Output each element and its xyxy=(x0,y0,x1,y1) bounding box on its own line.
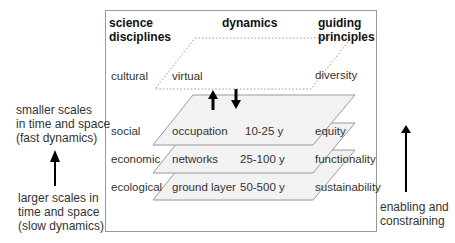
layer-label-networks: networks xyxy=(172,153,218,166)
header-principles-line1: guiding xyxy=(318,16,375,30)
slow-dynamics-label: larger scales in time and space (slow dy… xyxy=(18,191,104,233)
header-dynamics: dynamics xyxy=(222,16,277,30)
period-occupation: 10-25 y xyxy=(245,125,283,138)
discipline-ecological: ecological xyxy=(111,181,162,194)
slow-dynamics-line3: (slow dynamics) xyxy=(18,219,104,233)
slow-dynamics-line1: larger scales in xyxy=(18,191,104,205)
enabling-label: enabling and constraining xyxy=(380,200,449,228)
header-disciplines-line1: science xyxy=(109,16,171,30)
header-principles-line2: principles xyxy=(318,30,375,44)
period-networks: 25-100 y xyxy=(240,153,285,166)
layer-label-occupation: occupation xyxy=(172,125,228,138)
fast-dynamics-line2: in time and space xyxy=(16,117,110,131)
discipline-economic: economic xyxy=(111,153,160,166)
principle-equity: equity xyxy=(315,125,346,138)
layer-label-virtual: virtual xyxy=(172,70,203,83)
enabling-line2: constraining xyxy=(380,214,449,228)
principle-functionality: functionality xyxy=(315,153,376,166)
header-principles: guiding principles xyxy=(318,16,375,44)
header-disciplines-line2: disciplines xyxy=(109,30,171,44)
discipline-social: social xyxy=(111,125,140,138)
scale-arrow-icon xyxy=(50,150,60,186)
enabling-line1: enabling and xyxy=(380,200,449,214)
slow-dynamics-line2: time and space xyxy=(18,205,104,219)
principle-diversity: diversity xyxy=(315,69,357,82)
principle-sustainability: sustainability xyxy=(315,181,381,194)
fast-dynamics-label: smaller scales in time and space (fast d… xyxy=(16,103,110,145)
period-ground: 50-500 y xyxy=(240,181,285,194)
fast-dynamics-line3: (fast dynamics) xyxy=(16,131,110,145)
fast-dynamics-line1: smaller scales xyxy=(16,103,110,117)
layer-label-ground: ground layer xyxy=(172,181,236,194)
discipline-cultural: cultural xyxy=(111,70,148,83)
header-disciplines: science disciplines xyxy=(109,16,171,44)
enabling-arrow-icon xyxy=(401,125,411,192)
